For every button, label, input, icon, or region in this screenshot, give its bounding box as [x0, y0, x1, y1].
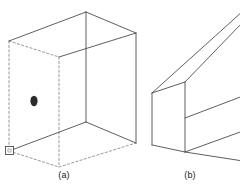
figure-background: [0, 0, 240, 186]
caption-b: (b): [140, 170, 240, 180]
figure-container: (a) (b): [0, 0, 240, 186]
caption-a: (a): [0, 170, 128, 180]
wireframe-diagram-svg: [0, 0, 240, 186]
corner-marker-inner: [8, 149, 11, 152]
interior-blob-marker: [30, 96, 37, 106]
corner-square-marker: [6, 147, 14, 155]
